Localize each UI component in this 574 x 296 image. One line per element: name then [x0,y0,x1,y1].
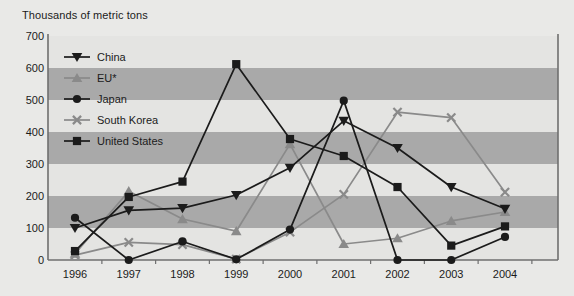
data-point-marker-square [501,222,509,230]
chart-root: Thousands of metric tons 700600500400300… [0,0,574,296]
data-point-marker-square [447,242,455,250]
legend-label: EU* [97,72,117,84]
legend-swatch-triangle-up [62,71,92,85]
data-point-marker-square [125,193,133,201]
legend-item-south-korea[interactable]: South Korea [62,111,158,129]
legend-item-united-states[interactable]: United States [62,132,163,150]
data-point-marker-circle [501,233,509,241]
data-point-marker-circle [73,95,81,103]
legend-swatch-circle [62,92,92,106]
data-point-marker-square [286,135,294,143]
data-point-marker-circle [286,226,294,234]
legend-label: Japan [97,93,127,105]
data-point-marker-circle [340,97,348,105]
data-point-marker-circle [393,256,401,264]
legend-label: China [97,51,126,63]
data-point-marker-circle [71,214,79,222]
legend-item-china[interactable]: China [62,48,126,66]
data-point-marker-square [340,152,348,160]
legend-swatch-square [62,134,92,148]
legend-item-eu-[interactable]: EU* [62,69,117,87]
data-point-marker-square [232,60,240,68]
data-point-marker-square [73,137,81,145]
data-point-marker-circle [178,237,186,245]
data-point-marker-circle [447,256,455,264]
legend-label: South Korea [97,114,158,126]
data-point-marker-square [393,183,401,191]
data-point-marker-circle [232,255,240,263]
data-point-marker-square [178,178,186,186]
legend-item-japan[interactable]: Japan [62,90,127,108]
data-point-marker-square [71,247,79,255]
data-point-marker-circle [125,256,133,264]
legend-swatch-triangle-down [62,50,92,64]
legend-label: United States [97,135,163,147]
legend-swatch-x-cross [62,113,92,127]
